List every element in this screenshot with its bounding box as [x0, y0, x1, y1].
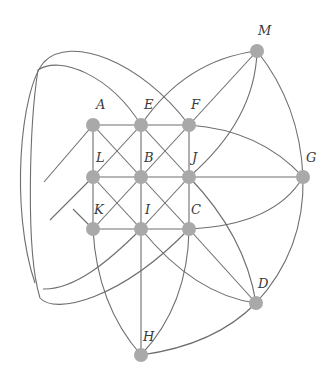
node-label-m: M — [258, 24, 271, 37]
edge-c-g — [189, 177, 303, 229]
node-label-a: A — [96, 98, 105, 111]
node-label-k: K — [94, 203, 104, 216]
edge-a-left-ext — [44, 125, 93, 182]
node-i — [134, 222, 148, 236]
edge-l-left-ext — [50, 177, 93, 220]
node-l — [86, 170, 100, 184]
edge-m-g — [257, 51, 303, 177]
node-e — [134, 118, 148, 132]
node-b — [134, 170, 148, 184]
node-label-e: E — [144, 98, 154, 111]
node-h — [134, 348, 148, 362]
node-label-f: F — [191, 98, 200, 111]
node-label-b: B — [144, 151, 154, 164]
node-d — [249, 296, 263, 310]
edge-k-h — [93, 229, 141, 355]
edge-e-c — [30, 65, 189, 304]
node-label-d: D — [258, 277, 268, 290]
node-label-l: L — [96, 151, 105, 164]
node-label-c: C — [191, 203, 201, 216]
node-k — [86, 222, 100, 236]
edge-f-g — [189, 125, 303, 177]
edge-h-d — [141, 303, 256, 355]
graph-diagram — [0, 0, 333, 380]
node-g — [296, 170, 310, 184]
node-label-h: H — [143, 330, 154, 343]
edges-group — [20, 51, 303, 355]
node-label-j: J — [192, 151, 197, 164]
node-label-g: G — [306, 151, 316, 164]
node-j — [182, 170, 196, 184]
node-c — [182, 222, 196, 236]
node-label-i: I — [145, 203, 150, 216]
node-m — [250, 44, 264, 58]
node-f — [182, 118, 196, 132]
edge-m-f — [189, 51, 257, 125]
node-a — [86, 118, 100, 132]
